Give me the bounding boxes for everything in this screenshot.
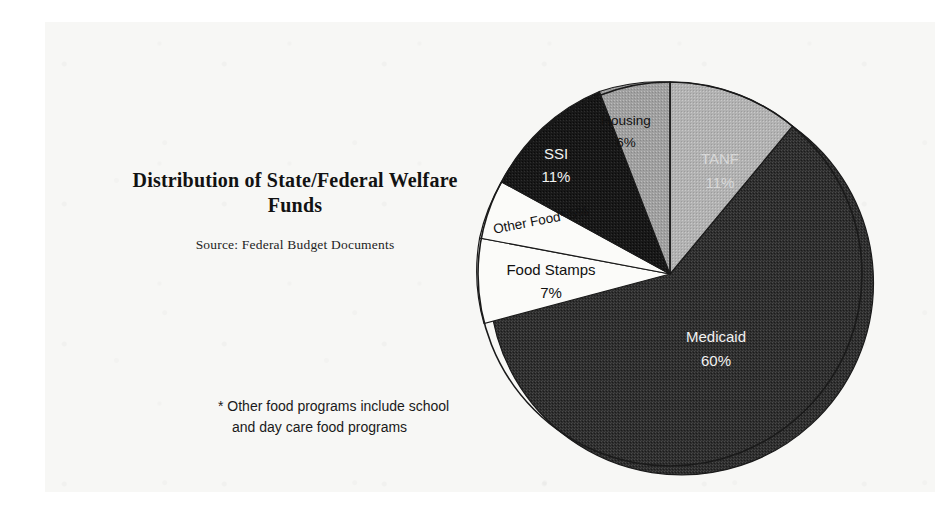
- chart-page: Distribution of State/Federal Welfare Fu…: [0, 0, 935, 508]
- pie-label-medicaid-value: 60%: [701, 352, 731, 369]
- pie-label-housing-name: Housing: [601, 113, 651, 128]
- pie-label-food-stamps-name: Food Stamps: [506, 261, 595, 278]
- pie-chart: TANF 11% Housing 6% SSI 11% Other Food* …: [466, 66, 886, 486]
- pie-label-tanf-value: 11%: [706, 174, 735, 191]
- pie-label-food-stamps-value: 7%: [540, 284, 562, 301]
- chart-source-note: Source: Federal Budget Documents: [130, 237, 460, 253]
- title-block: Distribution of State/Federal Welfare Fu…: [130, 168, 460, 253]
- pie-label-tanf-name: TANF: [701, 150, 739, 167]
- pie-chart-svg: TANF 11% Housing 6% SSI 11% Other Food* …: [466, 66, 886, 486]
- pie-label-medicaid-name: Medicaid: [686, 328, 746, 345]
- pie-label-housing-value: 6%: [616, 135, 636, 150]
- pie-label-ssi-value: 11%: [542, 168, 571, 185]
- page-title: Distribution of State/Federal Welfare Fu…: [130, 168, 460, 218]
- pie-label-ssi-name: SSI: [544, 145, 568, 162]
